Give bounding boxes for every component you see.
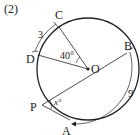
radius-OC: [59, 27, 88, 69]
problem-number: (2): [4, 2, 18, 16]
label-P: P: [30, 100, 37, 114]
chord-PA: [42, 105, 70, 120]
label-O: O: [91, 62, 100, 76]
tick-C: [54, 22, 58, 27]
label-A: A: [62, 124, 71, 135]
angle-COD-arc: [76, 57, 80, 63]
label-B: B: [124, 39, 132, 53]
arc-BA-dimension: [73, 52, 132, 124]
arc-CD-length: 3: [38, 29, 43, 40]
angle-P-value: x°: [53, 97, 62, 107]
center-point-O: [86, 67, 89, 70]
label-D: D: [26, 52, 35, 66]
arrowhead-A: [71, 122, 76, 127]
label-C: C: [55, 8, 63, 22]
arc-BA-length: 9: [128, 87, 134, 99]
geometry-figure: (2) C D O B P A 3 40° x° 9: [0, 0, 140, 135]
angle-COD-value: 40°: [60, 50, 74, 61]
